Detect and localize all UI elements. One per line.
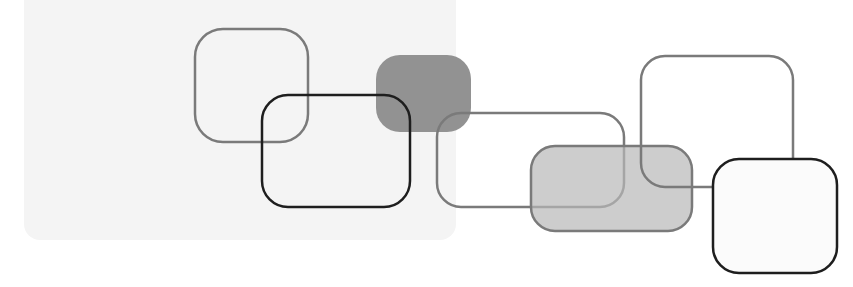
gray-outline-square (195, 29, 308, 142)
dark-gray-filled-square (376, 55, 471, 132)
white-dark-outline-square (713, 159, 837, 273)
light-gray-filled-rect (531, 146, 692, 231)
abstract-shapes (0, 0, 853, 287)
